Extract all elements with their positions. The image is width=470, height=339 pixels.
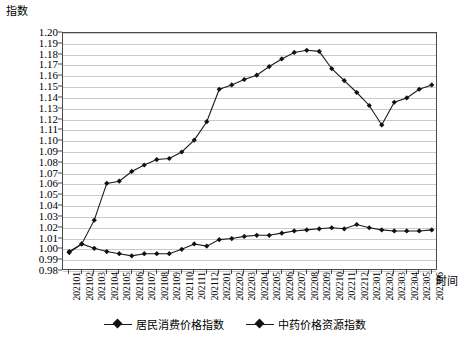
legend-marker-icon xyxy=(104,319,132,329)
x-axis-tick-label: 202206 xyxy=(285,272,295,301)
x-axis-tick-label: 202212 xyxy=(360,272,370,301)
data-point xyxy=(92,218,97,223)
x-axis-tick xyxy=(93,270,94,274)
x-axis-tick-label: 202301 xyxy=(372,272,382,301)
legend-label: 居民消费价格指数 xyxy=(136,316,224,332)
x-axis-tick xyxy=(256,270,257,274)
data-point xyxy=(104,249,109,254)
x-axis-tick-label: 202305 xyxy=(422,272,432,301)
series-layer xyxy=(63,33,438,271)
data-point xyxy=(392,228,397,233)
data-point xyxy=(154,157,159,162)
x-axis-tick xyxy=(206,270,207,274)
x-axis-tick xyxy=(268,270,269,274)
x-axis-tick xyxy=(143,270,144,274)
x-axis-tick-label: 202202 xyxy=(235,272,245,301)
data-point xyxy=(167,156,172,161)
data-point xyxy=(304,48,309,53)
series-line-0 xyxy=(69,224,432,255)
data-point xyxy=(217,237,222,242)
x-axis-tick-label: 202103 xyxy=(97,272,107,301)
x-axis-tick-label: 202111 xyxy=(197,272,207,300)
x-axis-tick xyxy=(393,270,394,274)
x-axis-tick xyxy=(193,270,194,274)
data-point xyxy=(279,231,284,236)
x-axis-tick-label: 202203 xyxy=(247,272,257,301)
data-point xyxy=(342,226,347,231)
x-axis-tick-label: 202210 xyxy=(335,272,345,301)
data-point xyxy=(217,87,222,92)
x-axis-tick xyxy=(168,270,169,274)
x-axis-tick xyxy=(343,270,344,274)
data-point xyxy=(417,228,422,233)
data-point xyxy=(129,253,134,258)
data-point xyxy=(204,244,209,249)
x-axis-tick-label: 202104 xyxy=(110,272,120,301)
x-axis-tick xyxy=(406,270,407,274)
data-point xyxy=(167,251,172,256)
data-point xyxy=(354,222,359,227)
data-point xyxy=(192,241,197,246)
data-point xyxy=(304,227,309,232)
x-axis-tick-label: 202201 xyxy=(222,272,232,301)
data-point xyxy=(329,225,334,230)
x-axis-tick xyxy=(418,270,419,274)
x-axis-tick xyxy=(281,270,282,274)
x-axis-tick-label: 202208 xyxy=(310,272,320,301)
x-axis-tick-label: 202102 xyxy=(85,272,95,301)
data-point xyxy=(229,236,234,241)
x-axis-tick xyxy=(68,270,69,274)
x-axis-tick-label: 202209 xyxy=(322,272,332,301)
data-point xyxy=(242,77,247,82)
x-axis-tick-label: 202302 xyxy=(385,272,395,301)
data-point xyxy=(367,225,372,230)
data-point xyxy=(92,246,97,251)
data-point xyxy=(142,162,147,167)
data-point xyxy=(117,251,122,256)
x-axis-tick xyxy=(318,270,319,274)
data-point xyxy=(292,50,297,55)
x-axis-tick-label: 202105 xyxy=(122,272,132,301)
x-axis-tick-label: 202107 xyxy=(147,272,157,301)
x-axis-tick xyxy=(356,270,357,274)
legend-item-0[interactable]: 居民消费价格指数 xyxy=(104,316,224,332)
x-axis-tick xyxy=(231,270,232,274)
x-axis-tick xyxy=(131,270,132,274)
x-axis-tick-label: 202108 xyxy=(160,272,170,301)
data-point xyxy=(429,227,434,232)
data-point xyxy=(317,226,322,231)
data-point xyxy=(242,234,247,239)
x-axis-tick-label: 202106 xyxy=(135,272,145,301)
series-line-1 xyxy=(69,50,432,251)
x-axis-tick xyxy=(156,270,157,274)
x-axis-tick-label: 202211 xyxy=(347,272,357,300)
data-point xyxy=(179,247,184,252)
x-axis-tick xyxy=(368,270,369,274)
x-axis-tick-label: 202304 xyxy=(410,272,420,301)
x-axis-tick-label: 202204 xyxy=(260,272,270,301)
legend-label: 中药价格资源指数 xyxy=(278,316,366,332)
x-axis-tick xyxy=(331,270,332,274)
x-axis-tick xyxy=(81,270,82,274)
data-point xyxy=(279,56,284,61)
x-axis-tick-label: 202109 xyxy=(172,272,182,301)
data-point xyxy=(379,227,384,232)
x-axis-tick-label: 202207 xyxy=(297,272,307,301)
data-point xyxy=(142,251,147,256)
x-axis-tick xyxy=(118,270,119,274)
x-axis-tick-label: 202306 xyxy=(435,272,445,301)
data-point xyxy=(104,181,109,186)
x-axis-tick xyxy=(306,270,307,274)
data-point xyxy=(254,233,259,238)
data-point xyxy=(379,122,384,127)
data-point xyxy=(404,228,409,233)
x-axis-tick-label: 202112 xyxy=(210,272,220,300)
x-axis-tick-label: 202101 xyxy=(72,272,82,301)
data-point xyxy=(292,228,297,233)
x-axis-tick xyxy=(181,270,182,274)
x-axis-tick-label: 202205 xyxy=(272,272,282,301)
legend-item-1[interactable]: 中药价格资源指数 xyxy=(246,316,366,332)
data-point xyxy=(154,251,159,256)
x-axis-tick xyxy=(218,270,219,274)
data-point xyxy=(392,100,397,105)
